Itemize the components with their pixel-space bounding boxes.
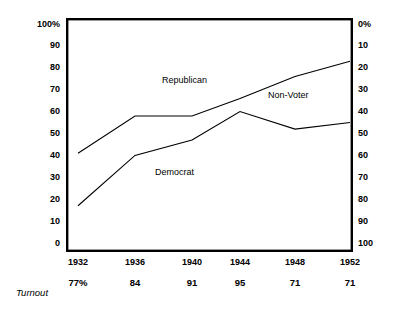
turnout-value: 84 — [103, 278, 167, 288]
series-label-non-voter: Non-Voter — [268, 91, 309, 100]
right-axis-tick-10: 100 — [358, 239, 373, 248]
year-label: 1932 — [46, 258, 110, 267]
right-axis-tick-1: 10 — [358, 41, 368, 50]
turnout-value: 71 — [318, 278, 382, 288]
left-axis-tick-5: 50 — [50, 129, 60, 138]
right-axis-tick-2: 20 — [358, 63, 368, 72]
right-axis-tick-0: 0% — [358, 20, 371, 29]
turnout-table: 193277%193684194091194495194871195271 — [0, 258, 418, 308]
chart-figure: 100%9080706050403020100 0%10203040506070… — [0, 0, 418, 319]
plot-area: Republican Non-Voter Democrat — [66, 18, 353, 252]
left-axis-tick-1: 90 — [50, 41, 60, 50]
turnout-column: 193684 — [103, 258, 167, 288]
plot-svg — [66, 18, 353, 252]
left-axis-tick-6: 40 — [50, 151, 60, 160]
left-axis-tick-10: 0 — [55, 239, 60, 248]
series-label-democrat: Democrat — [155, 168, 194, 177]
turnout-column: 193277% — [46, 258, 110, 288]
series-line-democrat — [78, 112, 350, 206]
left-axis-tick-4: 60 — [50, 107, 60, 116]
series-line-non-voter — [78, 61, 350, 153]
series-label-republican: Republican — [162, 76, 207, 85]
plot-frame — [67, 19, 352, 251]
right-axis-tick-8: 80 — [358, 195, 368, 204]
left-axis-tick-0: 100% — [37, 20, 60, 29]
left-axis-tick-2: 80 — [50, 63, 60, 72]
turnout-value: 77% — [46, 278, 110, 288]
right-axis-tick-9: 90 — [358, 217, 368, 226]
turnout-row-label: Turnout — [16, 288, 48, 298]
turnout-column: 195271 — [318, 258, 382, 288]
left-axis-tick-8: 20 — [50, 195, 60, 204]
right-axis-tick-5: 50 — [358, 129, 368, 138]
left-axis-tick-7: 30 — [50, 173, 60, 182]
left-axis-tick-9: 10 — [50, 217, 60, 226]
right-axis-tick-3: 30 — [358, 85, 368, 94]
right-axis-tick-6: 60 — [358, 151, 368, 160]
year-label: 1936 — [103, 258, 167, 267]
right-axis-tick-4: 40 — [358, 107, 368, 116]
year-label: 1952 — [318, 258, 382, 267]
left-axis-tick-3: 70 — [50, 85, 60, 94]
right-axis-tick-7: 70 — [358, 173, 368, 182]
